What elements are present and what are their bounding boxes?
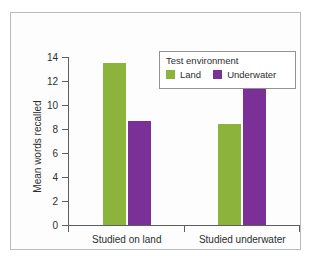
x-axis-tick	[68, 226, 69, 232]
y-axis-title: Mean words recalled	[32, 72, 43, 222]
y-axis-tick-label: 8	[52, 125, 58, 135]
y-axis-tick-label: 4	[52, 173, 58, 183]
legend-label: Land	[180, 70, 201, 80]
x-axis-tick	[184, 226, 185, 232]
y-axis-tick: 10	[62, 105, 68, 106]
legend-color-swatch	[213, 70, 222, 79]
y-axis-tick: 2	[62, 201, 68, 202]
x-axis-tick	[299, 226, 300, 232]
figure-frame: Mean words recalled 14121086420 Studied …	[10, 12, 301, 250]
y-axis-tick: 6	[62, 153, 68, 154]
x-axis-category-label: Studied on land	[69, 234, 185, 245]
bar	[218, 124, 241, 225]
y-axis-tick-label: 12	[47, 77, 58, 87]
legend-entries: LandUnderwater	[166, 70, 289, 80]
bar	[103, 63, 126, 225]
y-axis-tick-label: 6	[52, 149, 58, 159]
legend-entry: Land	[166, 70, 201, 80]
y-axis-tick-label: 0	[52, 221, 58, 231]
chart-legend: Test environment LandUnderwater	[159, 51, 296, 89]
y-axis-tick-label: 14	[47, 53, 58, 63]
legend-color-swatch	[166, 70, 175, 79]
bar	[128, 121, 151, 225]
y-axis-tick: 8	[62, 129, 68, 130]
x-axis-category-label: Studied underwater	[185, 234, 301, 245]
chart-plot-area: Mean words recalled 14121086420 Studied …	[11, 13, 300, 249]
bar	[243, 87, 266, 225]
y-axis-tick-label: 10	[47, 101, 58, 111]
y-axis-tick-label: 2	[52, 197, 58, 207]
legend-entry: Underwater	[213, 70, 276, 80]
y-axis-tick: 14	[62, 57, 68, 58]
y-axis-tick: 4	[62, 177, 68, 178]
y-axis-tick: 12	[62, 81, 68, 82]
legend-title: Test environment	[166, 55, 289, 67]
legend-label: Underwater	[227, 70, 276, 80]
